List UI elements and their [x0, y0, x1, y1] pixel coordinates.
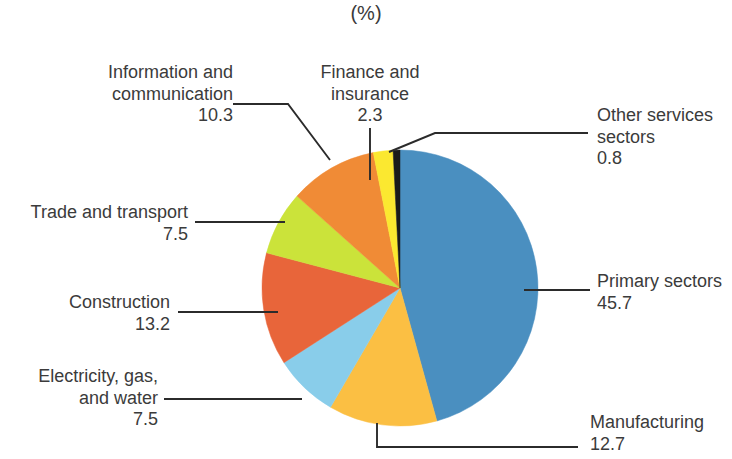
- callout-finance-value: 2.3: [295, 105, 445, 127]
- callout-trade-and-transport: Trade and transport 7.5: [0, 202, 188, 245]
- callout-electricity-line2: and water: [0, 388, 158, 410]
- callout-electricity-line1: Electricity, gas,: [0, 366, 158, 388]
- callout-electricity-value: 7.5: [0, 409, 158, 431]
- callout-manufacturing-value: 12.7: [590, 434, 732, 456]
- callout-primary-value: 45.7: [597, 293, 732, 315]
- callout-other-services-sectors: Other services sectors 0.8: [597, 105, 732, 170]
- callout-construction: Construction 13.2: [0, 292, 170, 335]
- callout-information-and-communication: Information and communication 10.3: [18, 62, 233, 127]
- callout-construction-line1: Construction: [0, 292, 170, 314]
- callout-manufacturing-line1: Manufacturing: [590, 412, 732, 434]
- callout-manufacturing: Manufacturing 12.7: [590, 412, 732, 455]
- callout-construction-value: 13.2: [0, 314, 170, 336]
- callout-primary-sectors: Primary sectors 45.7: [597, 271, 732, 314]
- pie-chart-figure: Figure 1. Sector Composition of Employme…: [0, 0, 732, 459]
- callout-primary-line1: Primary sectors: [597, 271, 732, 293]
- callout-information-line2: communication: [18, 84, 233, 106]
- callout-information-value: 10.3: [18, 105, 233, 127]
- callout-finance-and-insurance: Finance and insurance 2.3: [295, 62, 445, 127]
- callout-information-line1: Information and: [18, 62, 233, 84]
- callout-other-line1: Other services: [597, 105, 732, 127]
- callout-other-line2: sectors: [597, 127, 732, 149]
- pie-slices-group: [262, 150, 538, 426]
- callout-finance-line2: insurance: [295, 84, 445, 106]
- callout-trade-value: 7.5: [0, 224, 188, 246]
- callout-finance-line1: Finance and: [295, 62, 445, 84]
- callout-trade-line1: Trade and transport: [0, 202, 188, 224]
- leader-line-other: [389, 133, 588, 152]
- callout-electricity-gas-and-water: Electricity, gas, and water 7.5: [0, 366, 158, 431]
- callout-other-value: 0.8: [597, 148, 732, 170]
- leader-line-manufacturing: [377, 423, 578, 447]
